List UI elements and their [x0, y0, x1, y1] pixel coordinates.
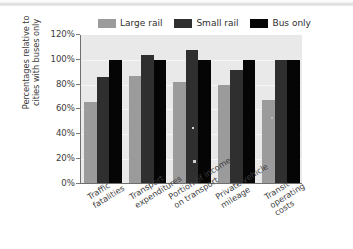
- plot-area: [80, 35, 302, 184]
- legend-swatch-small-rail: [174, 19, 192, 28]
- y-tick-label-120: 120%: [30, 30, 75, 39]
- bar-group-transit-operating-costs: [262, 35, 300, 183]
- y-tick-label-60: 60%: [30, 104, 75, 113]
- legend-label-bus-only: Bus only: [272, 18, 310, 28]
- dust-speck: [271, 117, 273, 119]
- bar-bus-only: [243, 60, 256, 183]
- scan-artifact-strip: [0, 0, 353, 7]
- bar-small-rail: [97, 77, 110, 183]
- bar-group-traffic-fatalities: [84, 35, 122, 183]
- legend-item-small-rail[interactable]: Small rail: [174, 18, 238, 28]
- legend-item-bus-only[interactable]: Bus only: [250, 18, 310, 28]
- bar-bus-only: [287, 60, 300, 183]
- bar-small-rail: [275, 60, 288, 183]
- bar-large-rail: [84, 102, 97, 183]
- legend-item-large-rail[interactable]: Large rail: [98, 18, 162, 28]
- bar-large-rail: [129, 76, 142, 183]
- y-tick-label-80: 80%: [30, 79, 75, 88]
- legend-swatch-bus-only: [250, 19, 268, 28]
- bar-small-rail: [141, 55, 154, 183]
- dust-speck: [193, 160, 196, 163]
- y-tick-label-40: 40%: [30, 129, 75, 138]
- bar-group-transport-expenditures: [128, 35, 166, 183]
- legend-label-small-rail: Small rail: [196, 18, 238, 28]
- bar-bus-only: [154, 60, 167, 183]
- x-axis-category-labels: Traffic fatalities Transport expenditure…: [80, 188, 310, 246]
- bar-bus-only: [109, 60, 122, 183]
- bar-small-rail: [186, 50, 199, 183]
- dust-speck: [192, 127, 194, 129]
- bar-bus-only: [198, 60, 211, 183]
- bar-chart-figure: Percentages relative to cities with buse…: [0, 0, 353, 249]
- y-axis-tick-labels: 120% 100% 80% 60% 40% 20% 0%: [30, 34, 75, 190]
- legend-swatch-large-rail: [98, 19, 116, 28]
- legend: Large rail Small rail Bus only: [98, 18, 311, 28]
- legend-label-large-rail: Large rail: [120, 18, 162, 28]
- y-tick-label-20: 20%: [30, 154, 75, 163]
- y-tick-label-0: 0%: [30, 179, 75, 188]
- bar-groups: [81, 35, 302, 183]
- y-tick-label-100: 100%: [30, 55, 75, 64]
